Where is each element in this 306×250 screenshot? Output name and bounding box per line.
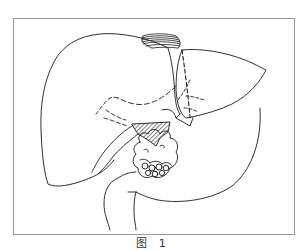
bile-duct-dashed bbox=[96, 97, 118, 114]
diaphragm-vessel bbox=[142, 34, 180, 48]
figure-caption: 图 1 bbox=[0, 238, 306, 250]
ligament-tip bbox=[176, 114, 193, 126]
bile-duct-dashed bbox=[118, 86, 176, 105]
left-lobe-outline bbox=[182, 49, 266, 117]
right-lobe-outline bbox=[41, 34, 168, 186]
resection-line bbox=[182, 50, 190, 117]
duodenum-connector bbox=[118, 172, 136, 178]
duodenum-left bbox=[104, 178, 118, 230]
hilar-duct bbox=[162, 109, 176, 118]
duct-branch bbox=[184, 108, 198, 112]
bile-duct-dashed bbox=[106, 110, 126, 120]
gallbladder-curve-2 bbox=[92, 126, 132, 172]
duodenum-inner bbox=[134, 192, 136, 230]
duodenum-outer bbox=[136, 108, 260, 201]
gallbladder-curve bbox=[98, 134, 138, 174]
